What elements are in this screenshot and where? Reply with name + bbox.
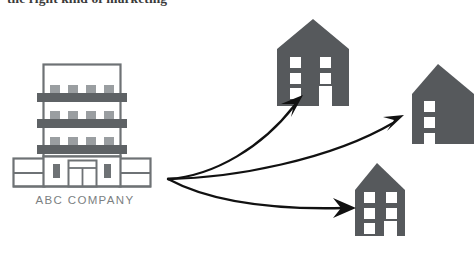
house-body xyxy=(277,49,349,94)
house-window xyxy=(364,208,375,219)
arrowhead-right xyxy=(383,115,404,131)
house-window xyxy=(424,101,435,112)
office-band xyxy=(37,145,127,154)
house-silhouette xyxy=(412,64,474,144)
house-door xyxy=(384,221,397,236)
main-building-label: ABC COMPANY xyxy=(0,194,170,206)
office-window xyxy=(50,137,60,145)
office-window xyxy=(68,137,78,145)
office-band xyxy=(37,93,127,102)
target-house-right xyxy=(412,64,474,144)
house-window xyxy=(290,73,301,84)
target-house-top xyxy=(277,19,349,106)
arrow-to-bottom-path xyxy=(168,179,344,208)
office-window xyxy=(104,137,114,145)
office-window xyxy=(104,85,114,93)
house-window xyxy=(320,57,331,68)
arrow-to-right-path xyxy=(168,123,393,179)
arrow-to-top-path xyxy=(168,106,294,179)
office-window xyxy=(50,111,60,119)
house-window xyxy=(364,223,375,234)
office-band xyxy=(37,119,127,128)
target-house-bottom xyxy=(355,163,405,236)
house-silhouette xyxy=(355,163,405,236)
office-window xyxy=(68,85,78,93)
illustration-canvas: the right kind of marketing xyxy=(0,0,474,255)
office-ground-window-right xyxy=(104,164,111,178)
house-window xyxy=(290,57,301,68)
house-door xyxy=(319,86,332,106)
house-window xyxy=(424,117,435,128)
diagram-scene xyxy=(0,0,474,255)
house-window xyxy=(424,133,435,144)
house-window xyxy=(364,192,375,203)
office-window xyxy=(86,85,96,93)
office-window xyxy=(104,111,114,119)
office-window xyxy=(68,111,78,119)
office-ground-window-left xyxy=(53,164,60,178)
office-window xyxy=(50,85,60,93)
main-building-abc-company xyxy=(13,65,151,187)
office-window xyxy=(86,137,96,145)
house-window xyxy=(386,192,397,203)
house-lower-body xyxy=(277,94,349,106)
house-window xyxy=(320,73,331,84)
house-window xyxy=(386,208,397,219)
office-window xyxy=(86,111,96,119)
